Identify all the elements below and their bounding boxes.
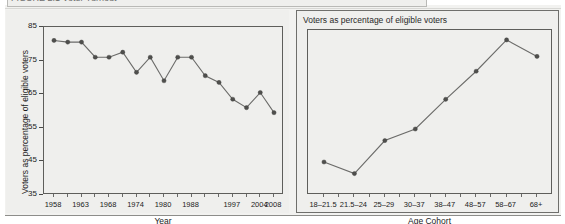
x-tick-mark	[177, 194, 178, 197]
x-tick-mark	[108, 194, 109, 197]
x-tick-mark	[163, 194, 164, 197]
x-tick-mark	[81, 194, 82, 197]
x-tick-mark	[353, 194, 354, 197]
x-tick-mark	[232, 194, 233, 197]
right-plot-area	[307, 29, 552, 194]
x-tick-mark	[149, 194, 150, 197]
data-point	[474, 69, 478, 73]
x-tick-mark	[475, 194, 476, 197]
x-tick-mark	[384, 194, 385, 197]
data-point	[189, 55, 193, 59]
right-x-axis-title: Age Cohort	[408, 216, 451, 224]
x-tick-mark	[218, 194, 219, 197]
x-tick-mark	[67, 194, 68, 197]
data-point	[148, 55, 152, 59]
x-tick-label: 25–29	[373, 200, 394, 209]
x-tick-mark	[53, 194, 54, 197]
page-margin-bottom	[0, 215, 565, 224]
y-tick-label: 35	[21, 189, 37, 198]
x-tick-label: 48–57	[465, 200, 486, 209]
figure-bottom-rule	[5, 215, 561, 216]
data-point	[217, 80, 221, 84]
figure-caption-text: FIGURE 2.1 Voter Turnout	[11, 0, 117, 3]
page-margin-left	[0, 0, 5, 224]
y-tick-mark	[39, 160, 43, 161]
data-point	[66, 40, 70, 44]
x-tick-mark	[136, 194, 137, 197]
x-tick-mark	[414, 194, 415, 197]
left-series-svg	[44, 27, 284, 195]
x-tick-label: 21.5–24	[340, 200, 367, 209]
data-point	[352, 171, 356, 175]
y-tick-label: 45	[21, 155, 37, 164]
data-point	[322, 160, 326, 164]
right-series-svg	[308, 30, 553, 195]
data-point	[162, 79, 166, 83]
y-tick-label: 85	[21, 21, 37, 30]
x-tick-label: 1980	[155, 200, 172, 209]
right-chart-title: Voters as percentage of eligible voters	[303, 15, 447, 25]
figure-top-rule	[5, 8, 561, 9]
data-point	[444, 97, 448, 101]
x-tick-label: 18–21.5	[309, 200, 336, 209]
x-tick-mark	[122, 194, 123, 197]
data-point	[258, 90, 262, 94]
data-point	[79, 40, 83, 44]
x-tick-mark-minor	[490, 194, 491, 197]
data-point	[203, 74, 207, 78]
left-x-axis-title: Year	[154, 216, 171, 224]
figure-root: FIGURE 2.1 Voter Turnout Voters as perce…	[0, 0, 565, 224]
data-point	[272, 111, 276, 115]
x-tick-mark	[94, 194, 95, 197]
y-tick-mark	[39, 194, 43, 195]
data-point	[244, 106, 248, 110]
x-tick-mark-minor	[521, 194, 522, 197]
x-tick-mark-minor	[338, 194, 339, 197]
x-tick-label: 1968	[100, 200, 117, 209]
y-tick-label: 75	[21, 55, 37, 64]
x-tick-mark	[445, 194, 446, 197]
figure-caption: FIGURE 2.1 Voter Turnout	[7, 0, 427, 7]
data-point	[107, 55, 111, 59]
data-point	[535, 54, 539, 58]
page-margin-right	[561, 0, 565, 224]
x-tick-mark	[536, 194, 537, 197]
x-tick-mark	[246, 194, 247, 197]
x-tick-mark-minor	[460, 194, 461, 197]
y-tick-mark	[39, 60, 43, 61]
x-tick-label: 1997	[223, 200, 240, 209]
data-point	[176, 55, 180, 59]
y-tick-mark	[39, 26, 43, 27]
x-tick-mark	[259, 194, 260, 197]
y-tick-label: 55	[21, 122, 37, 131]
x-tick-mark	[506, 194, 507, 197]
x-tick-mark-minor	[430, 194, 431, 197]
data-point	[504, 38, 508, 42]
x-tick-mark-minor	[369, 194, 370, 197]
x-tick-label: 68+	[530, 200, 543, 209]
data-point	[93, 55, 97, 59]
x-tick-label: 38–47	[434, 200, 455, 209]
x-tick-label: 30–37	[404, 200, 425, 209]
data-point	[413, 127, 417, 131]
x-tick-mark-minor	[399, 194, 400, 197]
x-tick-label: 58–67	[495, 200, 516, 209]
x-tick-label: 1958	[45, 200, 62, 209]
data-point	[52, 38, 56, 42]
left-plot-area	[43, 26, 283, 194]
y-tick-mark	[39, 93, 43, 94]
x-tick-mark	[273, 194, 274, 197]
data-point	[383, 138, 387, 142]
left-chart-panel: Voters as percentage of eligible voters …	[6, 10, 289, 213]
data-point	[121, 50, 125, 54]
x-tick-mark	[191, 194, 192, 197]
y-tick-mark	[39, 127, 43, 128]
x-tick-label: 1974	[127, 200, 144, 209]
data-point	[231, 97, 235, 101]
right-chart-panel: Voters as percentage of eligible voters …	[296, 10, 559, 213]
data-point	[134, 70, 138, 74]
x-tick-label: 1988	[182, 200, 199, 209]
x-tick-mark	[323, 194, 324, 197]
x-tick-label: 1963	[72, 200, 89, 209]
x-tick-mark	[204, 194, 205, 197]
